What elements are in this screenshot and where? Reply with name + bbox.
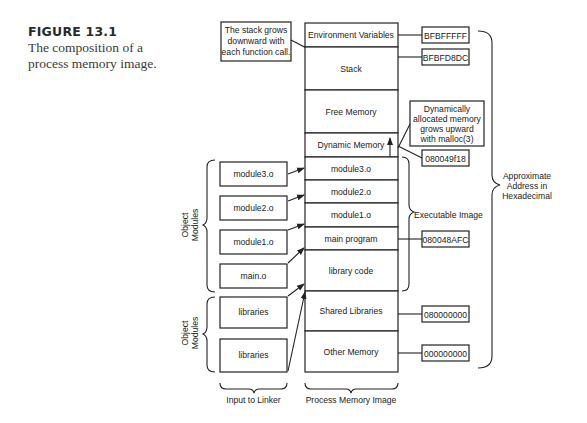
segment-library-code: library code: [329, 266, 374, 276]
module-module2: module2.o: [233, 203, 273, 213]
address-env: BFBFFFFF: [424, 31, 467, 41]
address-stack: BFBFD8DC: [423, 53, 468, 63]
module-main: main.o: [241, 271, 267, 281]
stack-note: The stack grows downward with each funct…: [221, 22, 314, 67]
svg-text:Hexadecimal: Hexadecimal: [502, 191, 552, 201]
memory-diagram: The stack grows downward with each funct…: [0, 0, 587, 423]
svg-text:downward with: downward with: [228, 36, 285, 46]
executable-image-brace: Executable Image: [402, 157, 483, 291]
process-memory-image: Environment Variables Stack Free Memory …: [305, 23, 398, 372]
segment-shared-libraries: Shared Libraries: [319, 306, 382, 316]
svg-text:Modules: Modules: [190, 317, 200, 349]
object-modules-label-top: Object: [180, 212, 190, 237]
address-dynamic: 080049f18: [425, 154, 466, 164]
address-shared-libraries: 080000000: [424, 310, 467, 320]
heap-note: Dynamically allocated memory grows upwar…: [398, 101, 484, 148]
input-to-linker-label: Input to Linker: [226, 395, 281, 405]
library-1: libraries: [238, 307, 268, 317]
segment-module1: module1.o: [331, 210, 371, 220]
svg-text:allocated memory: allocated memory: [413, 114, 482, 124]
svg-text:Approximate: Approximate: [503, 171, 551, 181]
process-memory-image-label: Process Memory Image: [306, 395, 397, 405]
svg-text:Address in: Address in: [507, 181, 548, 191]
object-modules-label-bottom: Object: [180, 320, 190, 345]
address-other-memory: 000000000: [424, 349, 467, 359]
linker-input: module3.o module2.o module1.o main.o lib…: [180, 160, 305, 405]
memory-image-footer: Process Memory Image: [305, 383, 398, 405]
segment-module3: module3.o: [331, 164, 371, 174]
module-module1: module1.o: [233, 237, 273, 247]
svg-text:Modules: Modules: [190, 209, 200, 241]
segment-module2: module2.o: [331, 187, 371, 197]
svg-text:grows upward: grows upward: [420, 124, 474, 134]
segment-dynamic-memory: Dynamic Memory: [318, 140, 386, 150]
svg-text:Executable Image: Executable Image: [414, 210, 483, 220]
segment-free-memory: Free Memory: [325, 107, 377, 117]
svg-text:Dynamically: Dynamically: [424, 104, 471, 114]
svg-text:The stack grows: The stack grows: [225, 25, 288, 35]
segment-main-program: main program: [324, 234, 377, 244]
svg-text:with malloc(3): with malloc(3): [419, 134, 473, 144]
segment-environment-variables: Environment Variables: [308, 30, 394, 40]
segment-other-memory: Other Memory: [324, 347, 380, 357]
library-2: libraries: [238, 350, 268, 360]
module-module3: module3.o: [233, 169, 273, 179]
approx-address-brace: Approximate Address in Hexadecimal: [478, 31, 552, 368]
address-main-program: 080048AFC: [423, 235, 469, 245]
segment-stack: Stack: [340, 64, 362, 74]
svg-text:each function call.: each function call.: [222, 47, 291, 57]
